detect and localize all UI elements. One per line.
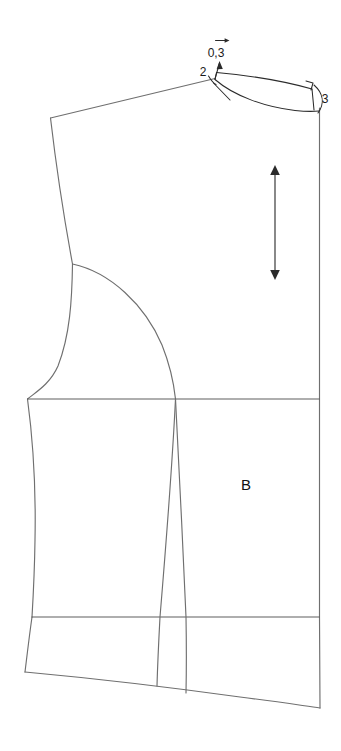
pattern-draft-svg: 0,3 2 3 B [0,0,341,751]
piece-label-b: B [241,476,251,493]
left-side-seam-hem [25,617,32,672]
hem-edge [25,672,320,708]
center-back-edge [320,108,321,708]
shoulder-point-tick [214,83,231,100]
left-side-seam-lower [28,399,36,617]
neck-point-arrowhead [217,61,223,69]
left-side-seam-waist [28,264,73,399]
pattern-drawing-canvas: 0,3 2 3 B [0,0,341,751]
neckline-lower-curve [215,80,319,112]
direction-arrow-head [225,38,230,42]
shoulder-seam [51,79,216,119]
annotation-shoulder: 2 [200,65,207,79]
neckband-right-edge [312,89,314,110]
dart-leg-left [157,399,176,686]
dart-leg-right [176,399,187,693]
grain-line-arrowhead-bottom [270,270,280,280]
annotation-center-back-neck: 3 [322,92,329,106]
annotation-neck-rise: 0,3 [208,46,225,60]
grain-line-arrowhead-top [270,165,280,175]
left-upper-side-seam [51,118,73,264]
neckline-upper-curve [217,73,313,90]
armhole-curve [73,264,176,399]
